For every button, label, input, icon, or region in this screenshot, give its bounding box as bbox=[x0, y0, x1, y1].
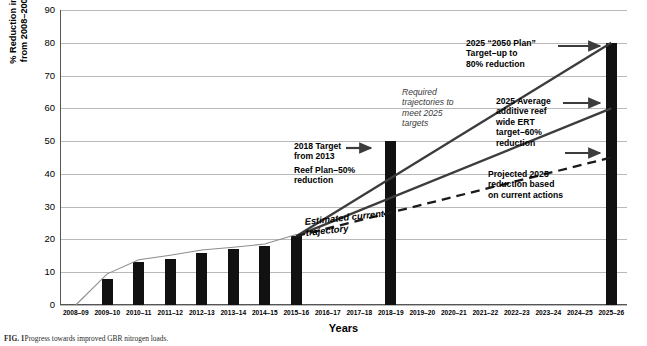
annotation-2050-plan-line3: 80% reduction bbox=[466, 59, 536, 69]
figure-caption-text: Progress towards improved GBR nitrogen l… bbox=[25, 334, 169, 343]
annotation-required-trajectories-line1: Required bbox=[402, 87, 454, 97]
annotation-ert-line4: target–60% bbox=[496, 127, 551, 137]
figure-caption: FIG. 1Progress towards improved GBR nitr… bbox=[4, 334, 644, 346]
annotation-2018-target-line2: from 2013 bbox=[294, 151, 355, 161]
annotation-projected-line3: on current actions bbox=[488, 190, 563, 200]
annotation-required-trajectories-line2: trajectories to bbox=[402, 97, 454, 107]
annotation-projected-line2: reduction based bbox=[488, 179, 563, 189]
annotation-ert-target: 2025 Average additive reef wide ERT targ… bbox=[496, 96, 551, 148]
annotation-2018-target: 2018 Target from 2013 Reef Plan–50% redu… bbox=[294, 141, 355, 186]
annotation-2050-plan-line1: 2025 “2050 Plan” bbox=[466, 38, 536, 48]
annotation-ert-line2: additive reef bbox=[496, 106, 551, 116]
annotation-2050-plan-target: 2025 “2050 Plan” Target–up to 80% reduct… bbox=[466, 38, 536, 69]
annotation-required-trajectories-line4: targets bbox=[402, 118, 454, 128]
annotation-ert-line3: wide ERT bbox=[496, 117, 551, 127]
annotation-2018-target-line4: reduction bbox=[294, 175, 355, 185]
annotation-2018-target-line1: 2018 Target bbox=[294, 141, 355, 151]
annotation-2018-target-line3: Reef Plan–50% bbox=[294, 165, 355, 175]
annotation-ert-line1: 2025 Average bbox=[496, 96, 551, 106]
annotation-ert-line5: reduction bbox=[496, 138, 551, 148]
annotation-required-trajectories-line3: meet 2025 bbox=[402, 108, 454, 118]
figure-caption-label: FIG. 1 bbox=[4, 334, 25, 343]
annotation-projected-line1: Projected 2025 bbox=[488, 169, 563, 179]
annotation-2050-plan-line2: Target–up to bbox=[466, 48, 536, 58]
annotation-projected-2025: Projected 2025 reduction based on curren… bbox=[488, 169, 563, 200]
annotation-required-trajectories: Required trajectories to meet 2025 targe… bbox=[402, 87, 454, 129]
figure-container: % Reduction in DIN loads from 2008–2009 … bbox=[0, 0, 647, 346]
